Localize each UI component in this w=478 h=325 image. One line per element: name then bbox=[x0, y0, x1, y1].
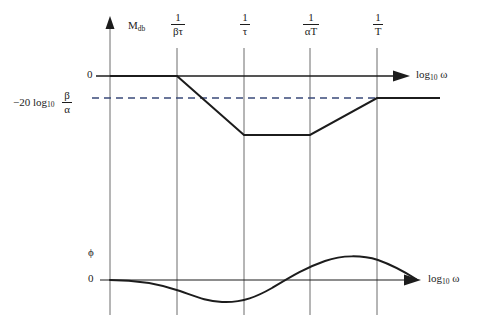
beta-alpha-asymptote-label: −20 log10 β α bbox=[13, 90, 72, 115]
phase-zero-label: 0 bbox=[88, 273, 94, 284]
magnitude-zero-label: 0 bbox=[87, 69, 93, 80]
break-frequency-label-1-tau: 1 τ bbox=[234, 12, 256, 37]
beta-over-alpha-fraction: β α bbox=[62, 90, 72, 115]
magnitude-x-axis-label: log10 ω bbox=[416, 69, 448, 81]
magnitude-y-axis-label: Mdb bbox=[128, 20, 145, 32]
magnitude-x-axis-arrowhead bbox=[393, 71, 410, 82]
break-frequency-label-1-beta-tau: 1 βτ bbox=[167, 12, 189, 37]
phase-x-axis-label: log10 ω bbox=[428, 273, 460, 285]
break-frequency-label-1-alpha-T: 1 αT bbox=[299, 12, 323, 37]
plot-canvas bbox=[0, 0, 478, 325]
magnitude-y-axis bbox=[106, 16, 115, 315]
phase-y-axis-label: ϕ bbox=[88, 247, 94, 258]
magnitude-y-axis-arrowhead bbox=[106, 16, 115, 29]
phase-curve bbox=[110, 256, 416, 302]
magnitude-asymptote-curve bbox=[110, 76, 440, 135]
break-frequency-label-1-T: 1 T bbox=[368, 12, 388, 37]
bode-plot-figure: Mdb log10 ω 0 −20 log10 β α 1 βτ 1 τ 1 α… bbox=[0, 0, 478, 325]
grid-lines bbox=[177, 48, 377, 315]
